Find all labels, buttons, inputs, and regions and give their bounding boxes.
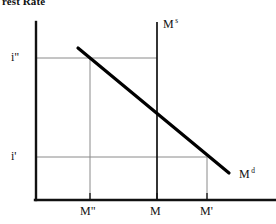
gridlines bbox=[36, 58, 207, 200]
money-supply-label-base: M bbox=[163, 17, 174, 31]
money-demand-curve bbox=[78, 48, 229, 173]
money-market-diagram bbox=[0, 0, 276, 224]
y-axis-label-i-double-prime: i" bbox=[11, 51, 19, 63]
x-axis-label-m-double-prime: M" bbox=[80, 205, 96, 217]
money-demand-curve-label: Md bbox=[239, 168, 255, 180]
figure-canvas: rest Rate i" i' Ms Md M" M M' bbox=[0, 0, 276, 224]
money-supply-label-superscript: s bbox=[174, 16, 178, 25]
money-demand-label-superscript: d bbox=[250, 166, 255, 175]
money-demand-line bbox=[78, 48, 229, 173]
money-demand-label-base: M bbox=[239, 167, 250, 181]
money-supply-curve-label: Ms bbox=[163, 18, 178, 30]
y-axis-label-i-prime: i' bbox=[11, 150, 17, 162]
x-axis-label-m-prime: M' bbox=[200, 205, 213, 217]
x-axis-label-m: M bbox=[150, 205, 161, 217]
